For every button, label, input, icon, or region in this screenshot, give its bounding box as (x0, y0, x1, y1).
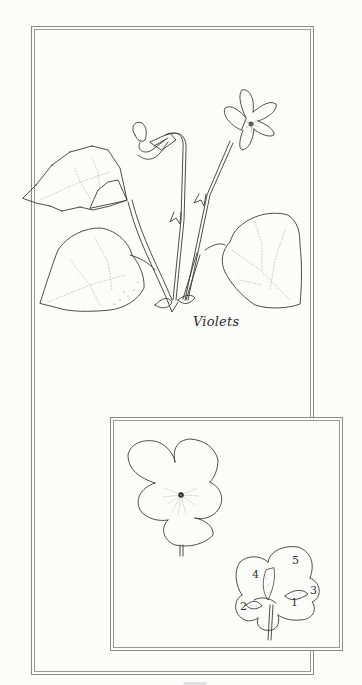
inset-illustration: 1 2 3 4 5 (0, 0, 362, 685)
front-view-violet-flower (128, 439, 222, 556)
petal-label-3: 3 (310, 584, 317, 597)
petal-label-5: 5 (292, 554, 299, 567)
petal-label-4: 4 (252, 568, 259, 581)
back-view-violet-flower: 1 2 3 4 5 (236, 547, 320, 640)
petal-label-1: 1 (291, 596, 298, 609)
petal-label-2: 2 (240, 600, 247, 613)
